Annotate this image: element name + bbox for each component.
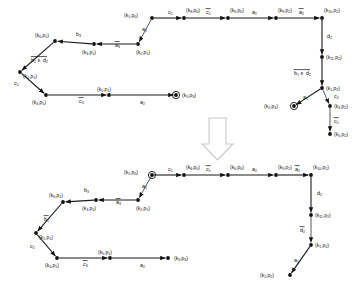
state-node[interactable] (309, 243, 313, 247)
state-label: (k11,p2) (315, 212, 331, 219)
state-node[interactable] (182, 16, 186, 20)
edge-label: b3 (84, 187, 89, 194)
edge-label: a1 (142, 26, 147, 33)
svg-text:(k3,p3): (k3,p3) (182, 92, 196, 99)
state-node[interactable] (136, 198, 140, 202)
edge-label: b1 (44, 216, 49, 223)
svg-text:(k1,p1): (k1,p1) (23, 73, 37, 80)
state-node[interactable] (108, 256, 112, 260)
svg-text:a1: a1 (142, 26, 147, 33)
edge-label: a2 (299, 9, 304, 16)
edge-label: c1 (168, 166, 173, 173)
state-node[interactable] (309, 173, 313, 177)
state-node[interactable] (226, 16, 230, 20)
edge-label: d2 (317, 190, 322, 197)
state-label: (k3,p3) (174, 255, 188, 262)
state-label: (k4,p1) (45, 262, 59, 269)
state-node[interactable] (55, 256, 59, 260)
state-node[interactable] (92, 42, 96, 46)
svg-text:c2: c2 (30, 243, 35, 250)
state-node[interactable] (107, 93, 111, 97)
edge-label: d2 (327, 33, 332, 40)
state-node[interactable] (150, 16, 154, 20)
down-arrow-icon (202, 118, 233, 160)
state-node[interactable] (290, 102, 297, 109)
svg-text:b3: b3 (84, 187, 89, 194)
edge-b_k6p1-to-b_k1p1 (38, 204, 62, 232)
state-node[interactable] (320, 16, 324, 20)
state-node[interactable] (136, 42, 140, 46)
svg-text:(k11,p2): (k11,p2) (326, 54, 342, 61)
svg-text:a2: a2 (295, 166, 300, 173)
state-node[interactable] (274, 16, 278, 20)
state-label: (k8,p0) (186, 164, 200, 171)
svg-text:(k3,p1): (k3,p1) (82, 205, 96, 212)
state-node[interactable] (18, 70, 22, 74)
svg-text:d2: d2 (300, 227, 305, 234)
edge-label: a3 (115, 42, 120, 49)
edge-label: c3 (83, 261, 88, 268)
state-node[interactable] (288, 273, 292, 277)
svg-text:d2: d2 (317, 190, 322, 197)
state-label: (k10,p2) (313, 164, 329, 171)
svg-text:(k4,p2): (k4,p2) (334, 103, 348, 110)
svg-text:a2: a2 (252, 166, 257, 173)
svg-text:(k6,p1): (k6,p1) (35, 32, 49, 39)
state-node[interactable] (226, 173, 230, 177)
svg-text:a2: a2 (140, 262, 145, 269)
edge-t_k3p1-to-t_k6p1 (58, 41, 92, 44)
svg-text:c2: c2 (334, 118, 339, 125)
state-node[interactable] (309, 213, 313, 217)
state-node[interactable] (172, 91, 179, 98)
state-node[interactable] (328, 104, 332, 108)
edge-label: c1 (206, 9, 211, 16)
edge-b_k3p1-to-b_k6p1 (66, 200, 94, 202)
svg-text:(k2,p1): (k2,p1) (136, 205, 150, 212)
edge-label: b3 (76, 31, 81, 38)
state-node[interactable] (320, 55, 324, 59)
state-label: (k2,p1) (136, 205, 150, 212)
state-node[interactable] (94, 198, 98, 202)
svg-text:c3: c3 (79, 98, 84, 105)
svg-text:a1: a1 (142, 183, 147, 190)
state-label: (k2,p2) (260, 272, 274, 279)
labels-layer: c1c1a2a2d2b1 ∧ d2c2c2a1a1a3b3b1 ∧ d2c2c3… (14, 7, 348, 279)
state-node[interactable] (166, 256, 170, 260)
diagram-svg: c1c1a2a2d2b1 ∧ d2c2c2a1a1a3b3b1 ∧ d2c2c3… (0, 0, 362, 287)
state-node[interactable] (182, 173, 186, 177)
state-label: (k9,p2) (278, 164, 292, 171)
state-label: (k1,p2) (315, 242, 329, 249)
edge-label: a2 (252, 9, 257, 16)
edge-label: a1 (142, 183, 147, 190)
svg-text:(k1,p2): (k1,p2) (326, 85, 340, 92)
edge-label: a1 (303, 94, 308, 101)
svg-text:b1: b1 (44, 216, 49, 223)
svg-text:(k9,p2): (k9,p2) (278, 7, 292, 14)
svg-text:(k1,p0): (k1,p0) (124, 169, 138, 176)
svg-text:(k3,p1): (k3,p1) (82, 49, 96, 56)
state-node[interactable] (34, 231, 38, 235)
state-label: (k10,p2) (324, 7, 340, 14)
svg-text:(k1,p0): (k1,p0) (124, 12, 138, 19)
svg-text:a1: a1 (303, 94, 308, 101)
state-node[interactable] (61, 200, 65, 204)
state-node[interactable] (320, 86, 324, 90)
svg-text:a3: a3 (115, 42, 120, 49)
state-label: (k8,p0) (186, 7, 200, 14)
state-node[interactable] (274, 173, 278, 177)
svg-text:(k2,p3): (k2,p3) (264, 103, 278, 110)
state-node[interactable] (328, 132, 332, 136)
svg-text:(k4,p1): (k4,p1) (32, 99, 46, 106)
svg-text:(k3,p3): (k3,p3) (174, 255, 188, 262)
state-label: (k5,p2) (334, 131, 348, 138)
state-node[interactable] (44, 93, 48, 97)
svg-text:(k4,p1): (k4,p1) (45, 262, 59, 269)
transform-arrow-layer (202, 118, 233, 160)
state-label: (k3,p1) (82, 205, 96, 212)
state-node[interactable] (53, 39, 57, 43)
svg-text:b1 ∧ d2: b1 ∧ d2 (294, 70, 311, 77)
edge-label: c2 (30, 243, 35, 250)
state-label: (k3,p1) (82, 49, 96, 56)
svg-text:a2: a2 (140, 99, 145, 106)
state-label: (k5,p1) (97, 86, 111, 93)
